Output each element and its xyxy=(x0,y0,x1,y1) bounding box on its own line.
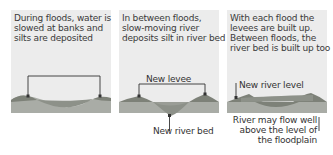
panel-during-floods: During floods, water is slowed at banks … xyxy=(11,10,111,113)
river-above-floodplain-label: River may flow well above the level of t… xyxy=(225,115,317,145)
floodplain-cross-section-1 xyxy=(11,10,111,113)
floodplain-cross-section-2 xyxy=(119,10,219,113)
floodplain-cross-section-3 xyxy=(227,10,327,113)
panel-between-floods: In between floods, slow-moving river dep… xyxy=(119,10,219,113)
new-river-bed-label: New river bed xyxy=(153,126,213,136)
new-river-level-label: New river level xyxy=(239,80,304,90)
panel-each-flood: With each flood the levees are built up.… xyxy=(227,10,327,113)
new-levee-label: New levee xyxy=(146,74,191,84)
